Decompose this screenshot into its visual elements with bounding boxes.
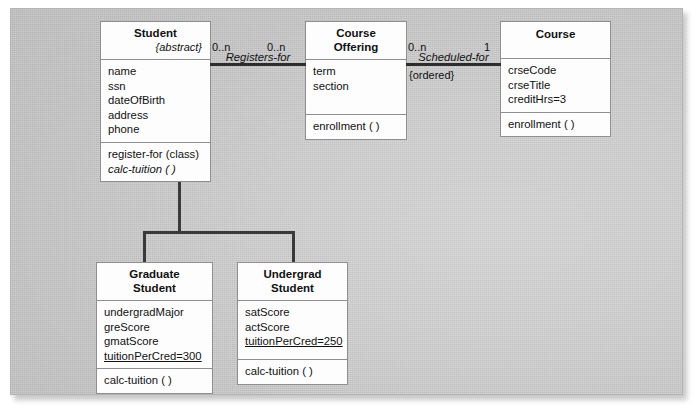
attribute-item-static: tuitionPerCred=250 (245, 334, 340, 349)
class-name-text-line2: Offering (334, 41, 379, 53)
operation-item: calc-tuition ( ) (245, 364, 340, 379)
association-constraint-ordered: {ordered} (409, 69, 454, 81)
attribute-item: ssn (108, 79, 203, 94)
generalization-branch-graduate (143, 231, 146, 263)
attribute-item: gmatScore (104, 334, 205, 349)
attribute-item: section (313, 79, 399, 94)
class-box-course[interactable]: Course crseCode crseTitle creditHrs=3 en… (500, 21, 611, 137)
class-name-course: Course (501, 22, 610, 58)
class-name-text-line1: Undergrad (263, 268, 321, 280)
attribute-item: phone (108, 122, 203, 137)
attribute-item: crseCode (508, 63, 603, 78)
attribute-item: dateOfBirth (108, 93, 203, 108)
class-name-text: Student (134, 27, 177, 39)
operation-item: register-for (class) (108, 147, 203, 162)
attributes-compartment-student: name ssn dateOfBirth address phone (101, 59, 210, 142)
operation-item-abstract: calc-tuition ( ) (108, 162, 203, 177)
class-stereotype-abstract: {abstract} (107, 41, 204, 55)
class-name-text-line2: Student (271, 282, 314, 294)
attribute-item: crseTitle (508, 78, 603, 93)
attribute-item: satScore (245, 305, 340, 320)
association-label-registers-for: Registers-for (210, 51, 306, 63)
attributes-compartment-course: crseCode crseTitle creditHrs=3 (501, 58, 610, 112)
generalization-bar (143, 231, 295, 234)
class-name-text-line2: Student (133, 282, 176, 294)
generalization-branch-undergrad (292, 231, 295, 263)
generalization-stem (178, 176, 181, 233)
operations-compartment-student: register-for (class) calc-tuition ( ) (101, 142, 210, 181)
diagram-canvas: 0..n 0..n Registers-for 0..n 1 Scheduled… (0, 0, 695, 412)
class-box-course-offering[interactable]: Course Offering term section enrollment … (305, 21, 407, 140)
operation-item: enrollment ( ) (508, 117, 603, 132)
attributes-compartment-undergrad-student: satScore actScore tuitionPerCred=250 (238, 300, 347, 359)
class-box-undergrad-student[interactable]: Undergrad Student satScore actScore tuit… (237, 262, 348, 385)
attributes-compartment-course-offering: term section (306, 59, 406, 114)
attribute-item: creditHrs=3 (508, 92, 603, 107)
attribute-item: name (108, 64, 203, 79)
association-label-scheduled-for: Scheduled-for (406, 51, 501, 63)
class-name-text-line1: Graduate (129, 268, 180, 280)
operations-compartment-undergrad-student: calc-tuition ( ) (238, 359, 347, 384)
attribute-item: greScore (104, 320, 205, 335)
class-name-course-offering: Course Offering (306, 22, 406, 59)
association-line-registers-for (210, 63, 306, 66)
class-box-student[interactable]: Student {abstract} name ssn dateOfBirth … (100, 21, 211, 182)
attribute-item-static: tuitionPerCred=300 (104, 349, 205, 364)
operation-item: enrollment ( ) (313, 119, 399, 134)
class-name-graduate-student: Graduate Student (97, 263, 212, 300)
association-line-scheduled-for (406, 63, 501, 66)
class-box-graduate-student[interactable]: Graduate Student undergradMajor greScore… (96, 262, 213, 394)
attribute-item: undergradMajor (104, 305, 205, 320)
operations-compartment-course-offering: enrollment ( ) (306, 114, 406, 139)
attribute-item: address (108, 108, 203, 123)
class-name-text-line1: Course (336, 27, 376, 39)
operations-compartment-course: enrollment ( ) (501, 112, 610, 137)
operations-compartment-graduate-student: calc-tuition ( ) (97, 368, 212, 393)
attribute-item: term (313, 64, 399, 79)
attributes-compartment-graduate-student: undergradMajor greScore gmatScore tuitio… (97, 300, 212, 368)
class-name-text: Course (536, 28, 576, 40)
attribute-item: actScore (245, 320, 340, 335)
operation-item: calc-tuition ( ) (104, 373, 205, 388)
class-name-student: Student {abstract} (101, 22, 210, 59)
class-name-undergrad-student: Undergrad Student (238, 263, 347, 300)
